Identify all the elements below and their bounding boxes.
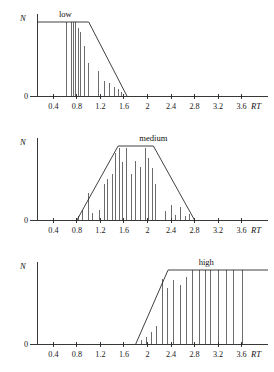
chart-canvas-medium: N00.40.81.21.622.42.83.23.6RTmedium — [0, 124, 274, 248]
histogram-spikes — [78, 148, 190, 220]
chart-canvas-high: N00.40.81.21.622.42.83.23.6RThigh — [0, 248, 274, 372]
x-tick-label: 2.4 — [166, 102, 176, 111]
x-tick-label: 2 — [145, 102, 149, 111]
y-tick-label: 0 — [24, 92, 28, 101]
membership-label-low: low — [59, 9, 73, 19]
histogram-spikes — [142, 270, 243, 344]
chart-panel-medium: N00.40.81.21.622.42.83.23.6RTmedium — [0, 124, 274, 248]
y-tick-label: 0 — [24, 216, 28, 225]
y-tick-label: 0 — [24, 340, 28, 349]
x-axis-title: RT — [250, 225, 262, 235]
x-tick-label: 0.8 — [72, 226, 82, 235]
x-tick-label: 0.4 — [48, 102, 58, 111]
y-axis-title: N — [19, 13, 27, 23]
x-tick-label: 2 — [145, 350, 149, 359]
y-axis-title: N — [19, 261, 27, 271]
x-tick-label: 1.6 — [119, 350, 129, 359]
x-tick-label: 0.4 — [48, 226, 58, 235]
y-axis-title: N — [19, 137, 27, 147]
x-tick-label: 2.8 — [189, 102, 199, 111]
chart-canvas-low: N00.40.81.21.622.42.83.23.6RTlow — [0, 0, 274, 124]
x-tick-label: 2.8 — [189, 226, 199, 235]
x-axis-title: RT — [250, 349, 262, 359]
x-tick-label: 3.6 — [236, 350, 246, 359]
x-tick-label: 1.2 — [95, 350, 105, 359]
chart-panel-low: N00.40.81.21.622.42.83.23.6RTlow — [0, 0, 274, 124]
x-tick-label: 1.6 — [119, 226, 129, 235]
membership-function-high — [136, 270, 268, 344]
x-tick-label: 2.4 — [166, 350, 176, 359]
x-tick-label: 2.8 — [189, 350, 199, 359]
x-tick-label: 0.8 — [72, 350, 82, 359]
x-tick-label: 2 — [145, 226, 149, 235]
x-tick-label: 3.6 — [236, 102, 246, 111]
x-tick-label: 1.6 — [119, 102, 129, 111]
x-tick-label: 1.2 — [95, 102, 105, 111]
x-tick-label: 3.2 — [213, 226, 223, 235]
figure-root: N00.40.81.21.622.42.83.23.6RTlow N00.40.… — [0, 0, 274, 372]
x-tick-label: 1.2 — [95, 226, 105, 235]
membership-label-high: high — [199, 257, 215, 267]
x-axis-title: RT — [250, 101, 262, 111]
x-tick-label: 0.8 — [72, 102, 82, 111]
x-tick-label: 3.2 — [213, 102, 223, 111]
x-tick-label: 2.4 — [166, 226, 176, 235]
membership-label-medium: medium — [139, 133, 167, 143]
x-tick-label: 0.4 — [48, 350, 58, 359]
chart-panel-high: N00.40.81.21.622.42.83.23.6RThigh — [0, 248, 274, 372]
x-tick-label: 3.6 — [236, 226, 246, 235]
x-tick-label: 3.2 — [213, 350, 223, 359]
histogram-spikes — [67, 22, 124, 96]
membership-function-low — [37, 22, 127, 96]
